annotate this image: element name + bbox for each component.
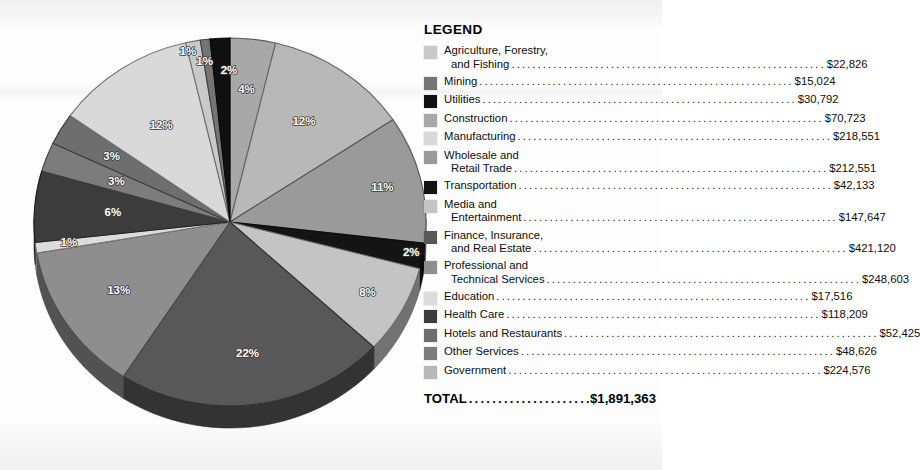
legend-item-label-line1: Media and [444, 198, 886, 212]
legend-color-swatch [424, 261, 437, 274]
pie-top-faces: ConstructionGovernmentWholesale and Reta… [34, 38, 426, 406]
pie-slice-percent-label: 12% [150, 119, 173, 131]
legend-color-swatch [424, 310, 437, 323]
legend-item[interactable]: Hotels and Restaurants..................… [424, 327, 656, 342]
legend-item-value: $52,425 [879, 327, 920, 341]
pie-slice-percent-label: 8% [359, 286, 376, 298]
legend-item-text: Finance, Insurance,and Real Estate......… [444, 229, 896, 256]
legend-item-label: and Fishing [451, 58, 509, 72]
legend-item-text: Agriculture, Forestry,and Fishing.......… [444, 44, 868, 71]
legend-title: LEGEND [424, 22, 656, 37]
legend-color-swatch [424, 132, 437, 145]
legend-item-text: Media andEntertainment..................… [444, 198, 886, 225]
legend-color-swatch [424, 46, 437, 59]
pie-slice-percent-label: 11% [371, 181, 393, 193]
pie-slice-percent-label: 1% [180, 45, 197, 57]
legend-item-label: Retail Trade [451, 162, 512, 176]
legend-item-line: Hotels and Restaurants..................… [444, 327, 920, 341]
legend-item-label: Technical Services [451, 273, 545, 287]
legend-item-label-line2: Technical Services......................… [444, 273, 909, 287]
legend-item[interactable]: Mining..................................… [424, 75, 656, 90]
legend-item-text: Transportation..........................… [444, 179, 875, 193]
legend-item-line: Other Services..........................… [444, 345, 877, 359]
legend-item[interactable]: Education...............................… [424, 290, 656, 305]
leader-dots: ........................................… [482, 93, 796, 107]
pie-slice-percent-label: 13% [107, 284, 130, 296]
legend-item[interactable]: Manufacturing...........................… [424, 130, 656, 145]
legend-item-value: $42,133 [834, 179, 875, 193]
legend-item-text: Government..............................… [444, 364, 871, 378]
legend-item-label-line2: Entertainment...........................… [444, 211, 886, 225]
legend-item[interactable]: Transportation..........................… [424, 179, 656, 194]
pie-slice-percent-label: 2% [403, 246, 420, 258]
legend-item[interactable]: Finance, Insurance,and Real Estate......… [424, 229, 656, 256]
legend-color-swatch [424, 114, 437, 127]
legend-item[interactable]: Utilities...............................… [424, 93, 656, 108]
legend-item-text: Manufacturing...........................… [444, 130, 880, 144]
legend-item-label-line2: and Real Estate.........................… [444, 242, 896, 256]
legend-total-dots: ........................................… [469, 391, 589, 406]
legend-item-line: Government..............................… [444, 364, 871, 378]
legend-item-label: and Real Estate [451, 242, 531, 256]
legend-item-label-line2: Retail Trade............................… [444, 162, 876, 176]
leader-dots: ........................................… [518, 179, 832, 193]
legend-color-swatch [424, 231, 437, 244]
legend-item-label-line1: Agriculture, Forestry, [444, 44, 868, 58]
legend-item-label: Transportation [444, 179, 516, 193]
legend-total-row: TOTAL ..................................… [424, 391, 656, 406]
legend-item-label-line1: Wholesale and [444, 149, 876, 163]
leader-dots: ........................................… [511, 58, 825, 72]
legend-item-value: $147,647 [839, 211, 886, 225]
legend-color-swatch [424, 181, 437, 194]
legend-item-text: Mining..................................… [444, 75, 835, 89]
legend-item-value: $17,516 [812, 290, 853, 304]
legend-color-swatch [424, 347, 437, 360]
legend-item-text: Utilities...............................… [444, 93, 839, 107]
legend-color-swatch [424, 366, 437, 379]
pie-slice-percent-label: 6% [104, 206, 121, 218]
legend-item-value: $15,024 [795, 75, 836, 89]
pie-chart: ConstructionGovernmentWholesale and Reta… [12, 8, 432, 448]
legend-item-line: Utilities...............................… [444, 93, 839, 107]
pie-slice-percent-label: 2% [221, 64, 238, 76]
legend-item-label: Hotels and Restaurants [444, 327, 562, 341]
legend-item[interactable]: Health Care.............................… [424, 308, 656, 323]
legend-item-line: Education...............................… [444, 290, 852, 304]
legend-item-label-line1: Finance, Insurance, [444, 229, 896, 243]
legend-item-label: Other Services [444, 345, 519, 359]
leader-dots: ........................................… [518, 130, 832, 144]
legend-item-line: Mining..................................… [444, 75, 835, 89]
legend-color-swatch [424, 95, 437, 108]
legend-color-swatch [424, 151, 437, 164]
legend-item-value: $22,826 [827, 58, 868, 72]
legend-list: Agriculture, Forestry,and Fishing.......… [424, 44, 656, 379]
legend-item-label-line1: Professional and [444, 259, 909, 273]
legend-item[interactable]: Other Services..........................… [424, 345, 656, 360]
legend-item[interactable]: Agriculture, Forestry,and Fishing.......… [424, 44, 656, 71]
pie-slice-percent-label: 1% [196, 55, 213, 67]
legend-item-line: Construction............................… [444, 112, 866, 126]
legend-item[interactable]: Media andEntertainment..................… [424, 198, 656, 225]
legend-item[interactable]: Government..............................… [424, 364, 656, 379]
legend-item-value: $224,576 [824, 364, 871, 378]
legend-item[interactable]: Wholesale andRetail Trade...............… [424, 149, 656, 176]
pie-slice-percent-label: 12% [292, 115, 315, 127]
pie-slice-percent-label: 22% [236, 347, 259, 359]
leader-dots: ........................................… [508, 364, 822, 378]
legend-color-swatch [424, 292, 437, 305]
legend-item[interactable]: Construction............................… [424, 112, 656, 127]
legend-item-label: Manufacturing [444, 130, 516, 144]
leader-dots: ........................................… [496, 290, 810, 304]
legend-item-label: Education [444, 290, 494, 304]
legend-item-value: $118,209 [822, 308, 868, 322]
legend-item-line: Health Care.............................… [444, 308, 868, 322]
legend-item-text: Health Care.............................… [444, 308, 868, 322]
leader-dots: ........................................… [506, 308, 820, 322]
legend-item-label: Health Care [444, 308, 504, 322]
leader-dots: ........................................… [509, 112, 823, 126]
legend-item[interactable]: Professional andTechnical Services......… [424, 259, 656, 286]
leader-dots: ........................................… [533, 242, 847, 256]
legend-item-value: $218,551 [833, 130, 880, 144]
leader-dots: ........................................… [523, 211, 837, 225]
legend-item-value: $248,603 [862, 273, 909, 287]
